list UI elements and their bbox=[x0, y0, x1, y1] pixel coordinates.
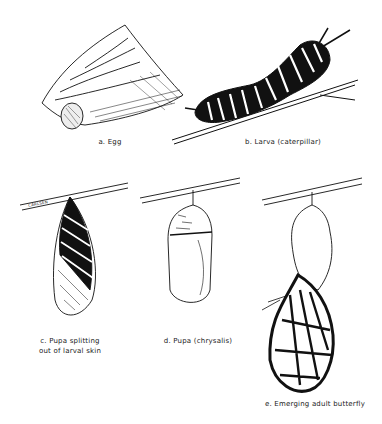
emerging-butterfly-drawing bbox=[262, 178, 362, 391]
egg-on-leaf-drawing bbox=[42, 25, 183, 129]
pupa-chrysalis-drawing bbox=[140, 178, 240, 302]
caption-emerging-adult: e. Emerging adult butterfly bbox=[250, 400, 380, 409]
caption-pupa-splitting-line1: c. Pupa splitting bbox=[25, 337, 115, 346]
caption-egg: a. Egg bbox=[80, 138, 140, 147]
caption-larva: b. Larva (caterpillar) bbox=[228, 138, 338, 147]
caption-pupa-splitting-line2: out of larval skin bbox=[25, 347, 115, 356]
caption-pupa-chrysalis: d. Pupa (chrysalis) bbox=[148, 337, 248, 346]
larva-caterpillar-drawing bbox=[172, 28, 358, 144]
life-cycle-illustration bbox=[0, 0, 382, 424]
